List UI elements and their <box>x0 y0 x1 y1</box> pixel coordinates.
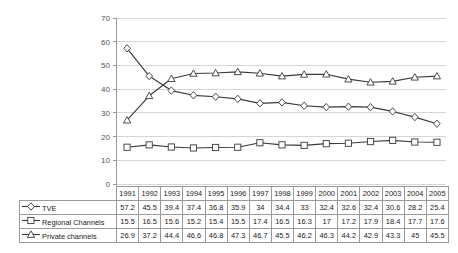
ytick-label-60: 60 <box>101 38 110 47</box>
series-label-text: Private channels <box>42 231 97 240</box>
marker-square <box>390 137 396 143</box>
ytick-label-40: 40 <box>101 85 110 94</box>
table-cell: 16.5 <box>139 215 161 229</box>
data-point-0-11 <box>367 103 374 110</box>
table-year-header-2004: 2004 <box>404 187 426 201</box>
marker-square <box>323 141 329 147</box>
table-corner-cell <box>20 187 117 201</box>
data-point-0-2 <box>168 87 175 94</box>
marker-square <box>367 138 373 144</box>
data-point-1-11 <box>367 138 373 144</box>
table-cell: 46.8 <box>205 229 227 243</box>
table-cell: 43.3 <box>382 229 404 243</box>
table-row: TVE57.245.539.437.436.835.93434.43332.43… <box>20 201 449 215</box>
data-point-1-6 <box>257 140 263 146</box>
line-chart-svg: 010203040506070 <box>0 0 458 190</box>
table-year-header-1994: 1994 <box>183 187 205 201</box>
data-point-0-13 <box>412 113 419 120</box>
chart-data-table: 1991199219931994199519961997199819992000… <box>19 186 449 243</box>
table-cell: 25.4 <box>426 201 448 215</box>
data-point-1-3 <box>190 145 196 151</box>
data-point-0-9 <box>323 103 330 110</box>
marker-square <box>213 144 219 150</box>
marker-diamond <box>389 108 396 115</box>
table-cell: 45.5 <box>271 229 293 243</box>
table-cell: 46.3 <box>316 229 338 243</box>
marker-square <box>279 142 285 148</box>
marker-square <box>257 140 263 146</box>
table-cell: 17.9 <box>360 215 382 229</box>
table-cell: 44.2 <box>338 229 360 243</box>
table-cell: 30.6 <box>382 201 404 215</box>
table-year-header-2005: 2005 <box>426 187 448 201</box>
data-point-1-14 <box>434 139 440 145</box>
table-cell: 47.3 <box>227 229 249 243</box>
table-cell: 18.4 <box>382 215 404 229</box>
series-regional-channels <box>124 137 440 151</box>
data-point-1-4 <box>213 144 219 150</box>
data-point-1-9 <box>323 141 329 147</box>
table-cell: 46.6 <box>183 229 205 243</box>
table-cell: 37.4 <box>183 201 205 215</box>
legend-marker-triangle <box>22 230 40 239</box>
marker-diamond <box>323 103 330 110</box>
data-point-1-1 <box>146 142 152 148</box>
table-cell: 15.2 <box>183 215 205 229</box>
marker-square <box>345 140 351 146</box>
table-year-header-1991: 1991 <box>117 187 139 201</box>
table-cell: 45.5 <box>426 229 448 243</box>
table-cell: 34 <box>249 201 271 215</box>
table-cell: 32.4 <box>316 201 338 215</box>
table-header-row: 1991199219931994199519961997199819992000… <box>20 187 449 201</box>
data-point-0-6 <box>257 100 264 107</box>
table-year-header-1999: 1999 <box>294 187 316 201</box>
legend-marker-diamond <box>22 202 40 211</box>
marker-diamond <box>168 87 175 94</box>
marker-diamond <box>412 113 419 120</box>
marker-diamond <box>257 100 264 107</box>
table-cell: 45 <box>404 229 426 243</box>
table-cell: 17.6 <box>426 215 448 229</box>
table-cell: 16.5 <box>271 215 293 229</box>
data-point-0-12 <box>389 108 396 115</box>
chart-container: 010203040506070 199119921993199419951996… <box>0 0 458 253</box>
table-cell: 46.7 <box>249 229 271 243</box>
marker-diamond <box>345 103 352 110</box>
marker-square <box>146 142 152 148</box>
marker-diamond <box>212 93 219 100</box>
table-header: 1991199219931994199519961997199819992000… <box>20 187 449 201</box>
marker-square <box>434 139 440 145</box>
table-cell: 36.8 <box>205 201 227 215</box>
table-cell: 35.9 <box>227 201 249 215</box>
data-point-1-7 <box>279 142 285 148</box>
series-label-text: TVE <box>42 203 56 212</box>
table-year-header-1997: 1997 <box>249 187 271 201</box>
table-cell: 26.9 <box>117 229 139 243</box>
marker-square <box>190 145 196 151</box>
legend-marker-square <box>22 216 40 225</box>
series-legend-regional-channels: Regional Channels <box>20 215 117 229</box>
data-point-0-7 <box>279 99 286 106</box>
marker-square <box>168 144 174 150</box>
table-cell: 46.2 <box>294 229 316 243</box>
table-cell: 17 <box>316 215 338 229</box>
table-cell: 37.2 <box>139 229 161 243</box>
data-point-0-14 <box>434 120 441 127</box>
table-cell: 57.2 <box>117 201 139 215</box>
marker-diamond <box>279 99 286 106</box>
table-year-header-1995: 1995 <box>205 187 227 201</box>
marker-square <box>124 144 130 150</box>
table-year-header-2002: 2002 <box>360 187 382 201</box>
ytick-label-30: 30 <box>101 109 110 118</box>
data-point-0-5 <box>234 95 241 102</box>
data-point-1-13 <box>412 139 418 145</box>
ytick-label-20: 20 <box>101 133 110 142</box>
table-cell: 39.4 <box>161 201 183 215</box>
table-cell: 32.4 <box>360 201 382 215</box>
plot-area: 010203040506070 <box>0 0 458 190</box>
table-year-header-2000: 2000 <box>316 187 338 201</box>
data-point-1-2 <box>168 144 174 150</box>
table-cell: 44.4 <box>161 229 183 243</box>
marker-square <box>412 139 418 145</box>
data-point-1-0 <box>124 144 130 150</box>
